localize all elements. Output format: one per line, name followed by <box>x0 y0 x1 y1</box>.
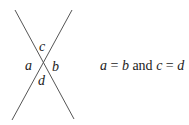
equals-sign: = <box>162 58 177 73</box>
equation-var-b: b <box>122 58 129 73</box>
equals-sign: = <box>107 58 122 73</box>
line-2 <box>12 10 72 120</box>
equation: a = b and c = d <box>100 59 184 73</box>
angle-label-b: b <box>52 60 59 74</box>
angle-label-a: a <box>25 59 32 73</box>
equation-var-d: d <box>177 58 184 73</box>
line-1 <box>15 10 74 119</box>
angle-label-c: c <box>39 40 45 54</box>
equation-var-a: a <box>100 58 107 73</box>
intersecting-lines-figure: c a b d a = b and c = d <box>0 0 189 125</box>
conjunction: and <box>129 58 156 73</box>
angle-label-d: d <box>38 74 45 88</box>
